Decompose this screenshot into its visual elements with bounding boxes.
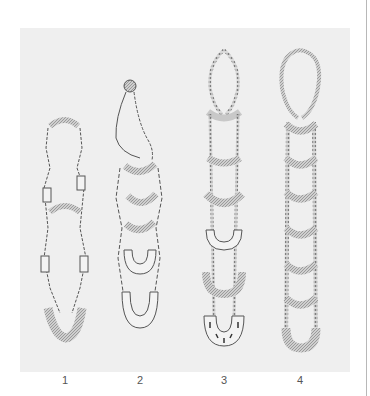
- page-edge-divider: [366, 0, 367, 396]
- illustration-plate: 1 2 3 4: [20, 28, 350, 372]
- necklace-figure-4: [281, 50, 319, 348]
- figure-label-4: 4: [290, 374, 310, 386]
- figure-label-3: 3: [214, 374, 234, 386]
- necklace-figure-1: [41, 120, 88, 338]
- necklace-figure-2: [116, 80, 162, 328]
- necklace-figure-3: [204, 50, 244, 346]
- figure-label-2: 2: [130, 374, 150, 386]
- necklace-drawings: [20, 28, 350, 372]
- figure-label-1: 1: [55, 374, 75, 386]
